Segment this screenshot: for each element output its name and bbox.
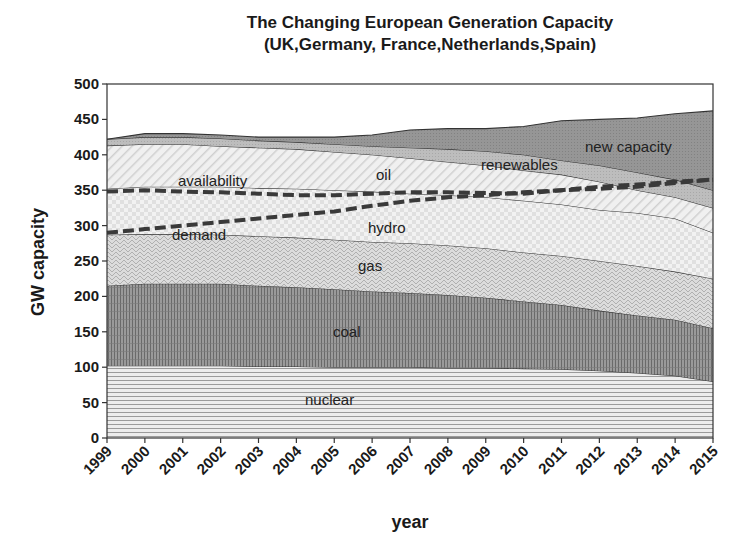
x-tick-label: 1999	[80, 442, 116, 478]
x-tick-label: 2012	[572, 442, 608, 478]
x-tick-label: 2014	[648, 442, 684, 478]
y-tick-label: 250	[74, 252, 99, 269]
band-nuclear	[107, 366, 713, 438]
label-renewables: renewables	[481, 156, 558, 173]
y-tick-label: 50	[82, 394, 99, 411]
x-tick-label: 2002	[193, 442, 229, 478]
x-tick-label: 2007	[383, 442, 419, 478]
label-nuclear: nuclear	[305, 391, 354, 408]
y-axis-title: GW capacity	[28, 208, 48, 316]
x-tick-label: 2003	[231, 442, 267, 478]
x-tick-label: 2015	[686, 442, 722, 478]
x-tick-label: 2000	[117, 442, 153, 478]
y-tick-label: 150	[74, 323, 99, 340]
y-tick-label: 0	[91, 429, 99, 446]
x-tick-label: 2010	[496, 442, 532, 478]
y-tick-label: 500	[74, 75, 99, 92]
stacked-area-chart: 050100150200250300350400450500 199920002…	[0, 0, 750, 558]
y-tick-label: 100	[74, 358, 99, 375]
area-bands	[107, 111, 713, 438]
y-tick-label: 350	[74, 181, 99, 198]
y-tick-label: 450	[74, 110, 99, 127]
x-tick-label: 2001	[155, 442, 191, 478]
x-tick-label: 2009	[458, 442, 494, 478]
label-gas: gas	[358, 257, 382, 274]
y-tick-label: 400	[74, 146, 99, 163]
x-tick-label: 2004	[269, 442, 305, 478]
x-axis: 1999200020012002200320042005200620072008…	[80, 438, 722, 478]
y-tick-label: 300	[74, 217, 99, 234]
x-tick-label: 2008	[420, 442, 456, 478]
label-oil: oil	[376, 166, 391, 183]
y-tick-label: 200	[74, 287, 99, 304]
y-axis: 050100150200250300350400450500	[74, 75, 107, 446]
label-new-capacity: new capacity	[585, 138, 672, 155]
label-coal: coal	[333, 323, 361, 340]
x-tick-label: 2006	[345, 442, 381, 478]
label-availability: availability	[178, 172, 248, 189]
x-axis-title: year	[391, 512, 428, 532]
label-hydro: hydro	[368, 219, 406, 236]
x-tick-label: 2005	[307, 442, 343, 478]
x-tick-label: 2011	[535, 442, 570, 477]
label-demand: demand	[172, 226, 226, 243]
x-tick-label: 2013	[610, 442, 646, 478]
